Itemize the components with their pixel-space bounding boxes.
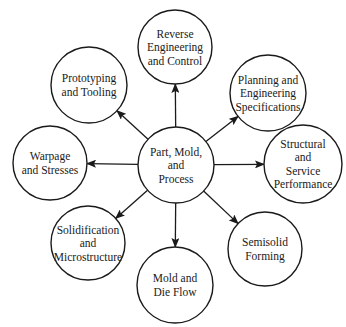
arrow-to-solidification <box>116 190 148 218</box>
node-label-line: Die Flow <box>153 286 197 298</box>
hub-spoke-diagram: Part, Mold,andProcessReverseEngineeringa… <box>0 0 346 327</box>
node-prototyping-tooling: Prototypingand Tooling <box>51 47 127 123</box>
node-semisolid-forming: SemisolidForming <box>228 212 302 286</box>
node-label-line: Structural <box>280 138 325 150</box>
node-label-line: Part, Mold, <box>150 146 202 159</box>
node-label-line: and <box>295 151 312 163</box>
node-label-line: Prototyping <box>62 72 117 85</box>
node-label-line: Performance <box>274 178 333 190</box>
node-label-line: Engineering <box>240 87 296 100</box>
node-label-line: Engineering <box>147 41 203 54</box>
node-label-line: Planning and <box>238 74 299 87</box>
node-label-line: and Tooling <box>62 86 117 99</box>
node-label-line: Specifications <box>235 101 301 114</box>
arrow-line <box>116 190 148 218</box>
node-label-line: Semisolid <box>242 236 288 248</box>
node-part-mold-process: Part, Mold,andProcess <box>138 127 214 203</box>
node-label-line: Solidification <box>57 224 120 236</box>
node-label-line: and Control <box>148 55 203 67</box>
node-label-line: and <box>168 159 185 171</box>
arrow-to-semisolid-forming <box>204 191 238 224</box>
node-label-line: and Stresses <box>22 164 79 176</box>
node-label-line: and <box>80 237 97 249</box>
node-mold-die-flow: Mold andDie Flow <box>137 247 213 323</box>
arrow-to-planning-engineering <box>206 116 238 141</box>
node-warpage-stresses: Warpageand Stresses <box>13 126 87 200</box>
node-label-line: Microstructure <box>54 251 122 263</box>
node-label-line: Mold and <box>153 272 198 284</box>
arrow-to-prototyping-tooling <box>117 111 148 140</box>
arrow-line <box>117 111 148 140</box>
node-structural-service: StructuralandServicePerformance <box>264 125 342 203</box>
arrow-line <box>87 164 138 165</box>
node-reverse-engineering: ReverseEngineeringand Control <box>138 10 212 84</box>
node-label-line: Forming <box>245 250 285 263</box>
arrow-line <box>206 116 238 141</box>
node-label-line: Process <box>158 173 194 185</box>
node-planning-engineering: Planning andEngineeringSpecifications <box>230 55 306 131</box>
node-label-line: Reverse <box>156 28 193 40</box>
node-label-line: Warpage <box>30 150 71 163</box>
node-label-line: Service <box>286 165 320 177</box>
nodes-layer: Part, Mold,andProcessReverseEngineeringa… <box>13 10 342 323</box>
arrow-to-warpage-stresses <box>87 164 138 165</box>
arrow-line <box>204 191 238 224</box>
node-solidification: SolidificationandMicrostructure <box>51 206 125 280</box>
